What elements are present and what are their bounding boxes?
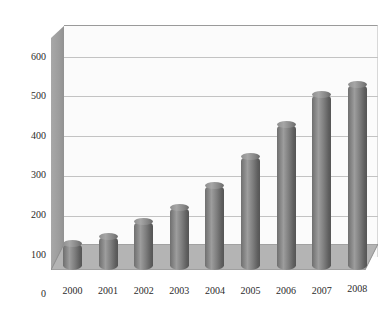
y-axis: 600 500 400 300 200 100 0: [0, 0, 46, 312]
bar-cap-2004: [205, 182, 224, 189]
bar-2001: [99, 236, 118, 270]
bar-body-2001: [99, 236, 118, 270]
bar-2003: [170, 207, 189, 270]
x-tick-label-2000: 2000: [55, 285, 91, 296]
x-tick-label-2007: 2007: [304, 285, 340, 296]
bar-body-2007: [312, 94, 331, 270]
x-tick-label-2004: 2004: [197, 285, 233, 296]
bar-2006: [277, 124, 296, 270]
bar-body-2008: [348, 84, 367, 270]
y-tick-label-600: 600: [4, 52, 46, 62]
bar-body-2003: [170, 207, 189, 270]
x-tick-label-2006: 2006: [268, 285, 304, 296]
bar-2002: [134, 221, 153, 270]
bar-body-2000: [63, 243, 82, 270]
bar-cap-2003: [170, 204, 189, 211]
y-tick-label-500: 500: [4, 91, 46, 101]
bar-body-2005: [241, 156, 260, 270]
bar-2005: [241, 156, 260, 270]
bar-body-2004: [205, 185, 224, 270]
x-tick-label-2001: 2001: [90, 285, 126, 296]
bar-2008: [348, 84, 367, 270]
x-tick-label-2005: 2005: [233, 285, 269, 296]
y-tick-label-400: 400: [4, 131, 46, 141]
bar-body-2002: [134, 221, 153, 270]
bar-body-2006: [277, 124, 296, 270]
y-tick-label-100: 100: [4, 250, 46, 260]
bar-2000: [63, 243, 82, 270]
bar-cap-2008: [348, 81, 367, 88]
bar-chart: 600 500 400 300 200 100 0 20002001200220…: [0, 0, 392, 312]
y-tick-label-300: 300: [4, 170, 46, 180]
left-wall-panel: [51, 25, 65, 270]
bar-2004: [205, 185, 224, 270]
x-axis: 200020012002200320042005200620072008: [0, 283, 392, 303]
x-tick-label-2003: 2003: [161, 285, 197, 296]
bar-cap-2006: [277, 121, 296, 128]
y-tick-label-200: 200: [4, 210, 46, 220]
x-tick-label-2008: 2008: [339, 283, 375, 294]
gridline-500: [64, 57, 378, 58]
x-tick-label-2002: 2002: [126, 285, 162, 296]
bar-2007: [312, 94, 331, 270]
bar-cap-2007: [312, 91, 331, 98]
